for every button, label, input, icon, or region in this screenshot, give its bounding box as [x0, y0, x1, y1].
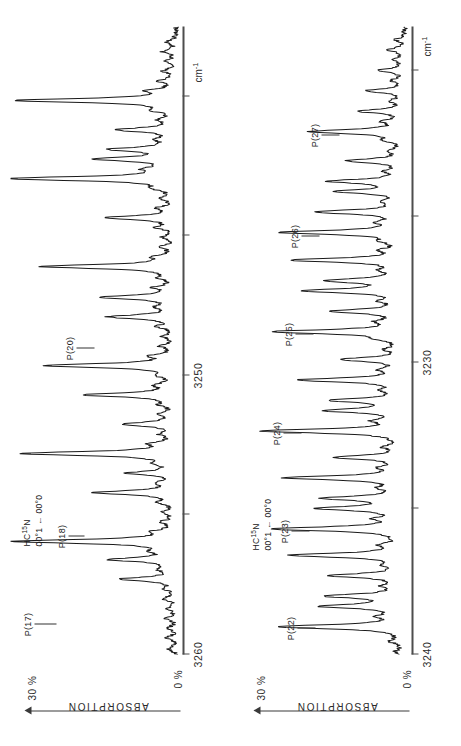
peak-label-p24: P(24)	[271, 421, 281, 445]
unit-exponent: -1	[190, 62, 199, 69]
x-tick-top-0	[182, 653, 189, 654]
peak-label-p22: P(22)	[285, 616, 295, 640]
x-tick-bottom-4	[411, 69, 418, 70]
peak-label-p20: P(20)	[64, 336, 74, 360]
peak-leader-p25	[295, 333, 313, 334]
absorption-axis-bottom: ABSORPTION	[253, 704, 413, 716]
x-tick-bottom-3	[411, 215, 418, 216]
y-zero-label-bottom: 0 %	[401, 669, 412, 688]
trace-svg-top	[10, 26, 182, 654]
x-axis-bottom	[411, 26, 413, 654]
x-axis-unit-bottom: cm-1	[419, 36, 432, 56]
spectrum-trace-top	[10, 26, 182, 654]
peak-label-p23: P(23)	[279, 519, 289, 543]
spectrum-figure: ABSORPTION 30 % 0 % HC15N 00°1 ← 00°0	[0, 0, 461, 746]
x-tick-label-3230: 3230	[420, 349, 432, 375]
x-tick-top-3	[182, 234, 189, 235]
peak-leader-p17	[34, 623, 56, 624]
peak-leader-p18	[68, 535, 84, 536]
unit-text: cm	[192, 69, 203, 82]
x-tick-bottom-2	[411, 361, 418, 362]
x-tick-top-1	[182, 513, 189, 514]
absorption-axis-label: ABSORPTION	[58, 701, 158, 712]
x-tick-top-2	[182, 374, 189, 375]
peak-leader-p22	[297, 627, 315, 628]
figure-page: ABSORPTION 30 % 0 % HC15N 00°1 ← 00°0	[0, 0, 461, 746]
peak-label-p18: P(18)	[56, 524, 66, 548]
panel-top: ABSORPTION 30 % 0 % HC15N 00°1 ← 00°0	[4, 0, 226, 746]
peak-label-p27: P(27)	[309, 123, 319, 147]
absorption-axis-label-bottom: ABSORPTION	[287, 701, 387, 712]
absorption-axis-top: ABSORPTION	[24, 704, 184, 716]
peak-label-p25: P(25)	[283, 322, 293, 346]
rotated-figure-wrapper: ABSORPTION 30 % 0 % HC15N 00°1 ← 00°0	[0, 0, 461, 746]
peak-label-p17: P(17)	[22, 612, 32, 636]
x-axis-unit-top: cm-1	[190, 62, 203, 82]
x-tick-bottom-1	[411, 507, 418, 508]
y-zero-label-top: 0 %	[172, 669, 183, 688]
y-max-label-top: 30 %	[26, 675, 37, 700]
x-tick-label-3240: 3240	[420, 641, 432, 667]
peak-leader-p20	[76, 347, 94, 348]
peak-leader-p26	[301, 235, 319, 236]
x-tick-label-3250: 3250	[191, 362, 203, 388]
y-max-label-bottom: 30 %	[255, 675, 266, 700]
panel-bottom: ABSORPTION 30 % 0 % HC15N 00°1 ← 00°0	[233, 0, 455, 746]
peak-leader-p27	[321, 134, 339, 135]
x-axis-top	[182, 26, 184, 654]
spectrum-trace-bottom	[239, 26, 411, 654]
trace-svg-bottom	[239, 26, 411, 654]
x-tick-bottom-0	[411, 653, 418, 654]
peak-leader-p23	[291, 530, 309, 531]
peak-label-p26: P(26)	[289, 224, 299, 248]
unit-exponent-b: -1	[419, 36, 428, 43]
unit-text-b: cm	[421, 43, 432, 56]
x-tick-top-4	[182, 95, 189, 96]
peak-leader-p24	[283, 432, 301, 433]
x-tick-label-3260: 3260	[191, 641, 203, 667]
